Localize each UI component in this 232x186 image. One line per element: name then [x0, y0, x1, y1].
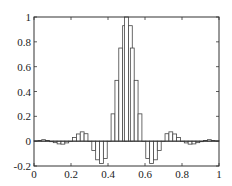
bar — [100, 141, 104, 163]
bar — [146, 141, 150, 158]
y-tick-label: 0 — [26, 135, 32, 147]
bar — [157, 141, 161, 150]
bar — [103, 141, 107, 158]
bar — [153, 141, 157, 160]
bar — [150, 141, 154, 163]
stairs-bar-chart: 00.20.40.60.81 -0.200.20.40.60.81 — [0, 0, 232, 186]
y-axis-tick-labels: -0.200.20.40.60.81 — [14, 11, 32, 172]
bar — [165, 134, 169, 141]
bar-series — [34, 17, 219, 164]
bar — [80, 132, 84, 141]
x-tick-label: 0.6 — [138, 168, 152, 180]
x-tick-label: 0 — [31, 168, 37, 180]
bar — [130, 48, 134, 141]
y-tick-label: 0.4 — [17, 86, 31, 98]
y-tick-label: 0.2 — [17, 110, 31, 122]
bar — [125, 17, 129, 141]
bar — [115, 80, 119, 141]
bar — [177, 137, 181, 141]
bar — [169, 132, 173, 141]
y-tick-label: -0.2 — [14, 160, 31, 172]
bar — [73, 137, 77, 141]
bar — [84, 134, 88, 141]
x-tick-label: 0.8 — [175, 168, 189, 180]
y-tick-label: 0.6 — [17, 61, 31, 73]
bar — [111, 114, 115, 141]
bar — [173, 134, 177, 141]
bar — [92, 141, 96, 150]
bar — [96, 141, 100, 160]
y-tick-label: 1 — [26, 11, 32, 23]
x-tick-label: 0.2 — [64, 168, 78, 180]
x-tick-label: 0.4 — [101, 168, 115, 180]
bar — [119, 48, 123, 141]
bar — [138, 114, 142, 141]
bar — [134, 80, 138, 141]
bar — [76, 134, 80, 141]
x-tick-label: 1 — [216, 168, 222, 180]
x-axis-tick-labels: 00.20.40.60.81 — [31, 168, 222, 180]
y-tick-label: 0.8 — [17, 36, 31, 48]
